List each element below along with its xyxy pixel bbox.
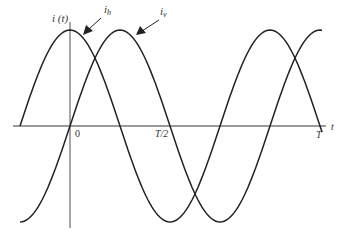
y-axis-label: i (t) [52, 12, 69, 25]
tick-label-half-period: T/2 [155, 128, 168, 139]
x-axis-label: t [331, 121, 334, 132]
arrow-i-v [136, 20, 159, 35]
arrow-i-h [83, 18, 101, 35]
curve-label-i-h: ih [104, 3, 111, 17]
waveform-diagram: i (t) ih iv 0 T/2 T t [0, 0, 350, 235]
curve-label-i-v: iv [160, 5, 167, 19]
tick-label-origin: 0 [75, 128, 80, 139]
